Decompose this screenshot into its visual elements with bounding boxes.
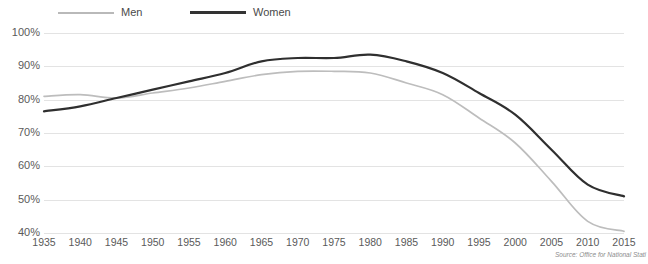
cropped-title [0, 0, 648, 4]
x-axis-tick-label: 1975 [322, 236, 345, 248]
series-line-women [44, 55, 624, 197]
y-axis-tick-label: 70% [0, 127, 40, 138]
x-axis-tick-label: 2000 [504, 236, 527, 248]
x-axis-tick-label: 2010 [576, 236, 599, 248]
x-axis-tick-label: 1965 [250, 236, 273, 248]
x-axis-tick-label: 1995 [467, 236, 490, 248]
x-axis-tick-label: 1945 [105, 236, 128, 248]
x-axis-tick-label: 1940 [69, 236, 92, 248]
x-axis-tick-label: 1955 [177, 236, 200, 248]
y-axis-tick-label: 90% [0, 60, 40, 71]
y-axis-tick-label: 60% [0, 160, 40, 171]
x-axis-tick-label: 1935 [32, 236, 55, 248]
x-axis-tick-label: 2015 [612, 236, 635, 248]
y-axis-tick-label: 100% [0, 27, 40, 38]
x-axis-tick-label: 1960 [214, 236, 237, 248]
source-attribution: Source: Office for National Stati [0, 251, 648, 259]
x-axis-tick-label: 1990 [431, 236, 454, 248]
y-axis-tick-label: 80% [0, 94, 40, 105]
legend-swatch-men-icon [58, 12, 114, 14]
plot-area [44, 33, 624, 233]
y-axis: 40%50%60%70%80%90%100% [0, 33, 40, 233]
legend-item-women[interactable]: Women [190, 6, 291, 19]
x-axis-tick-label: 1970 [286, 236, 309, 248]
legend-item-men[interactable]: Men [58, 6, 142, 19]
line-chart: Men Women 40%50%60%70%80%90%100% 1935194… [0, 0, 648, 264]
legend-swatch-women-icon [190, 11, 246, 14]
legend-label-men: Men [121, 6, 142, 19]
series-lines [44, 33, 624, 233]
chart-legend: Men Women [0, 6, 648, 26]
x-axis-tick-label: 1980 [359, 236, 382, 248]
x-axis: 1935194019451950195519601965197019751980… [44, 236, 624, 250]
x-axis-tick-label: 1950 [141, 236, 164, 248]
y-axis-tick-label: 50% [0, 194, 40, 205]
gridline [44, 233, 624, 234]
x-axis-tick-label: 1985 [395, 236, 418, 248]
legend-label-women: Women [253, 6, 291, 19]
x-axis-tick-label: 2005 [540, 236, 563, 248]
